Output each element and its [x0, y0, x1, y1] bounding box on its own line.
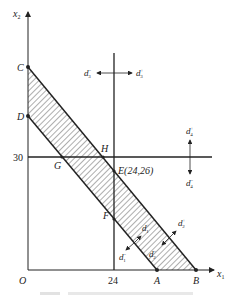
d1-minus-arrow — [126, 243, 134, 250]
label-C: C — [17, 62, 24, 73]
point-D — [26, 114, 30, 118]
label-A: A — [153, 275, 161, 286]
d3-plus-label: d+3 — [136, 68, 144, 79]
caption-placeholder — [68, 292, 193, 295]
origin-label: O — [19, 275, 26, 286]
point-B — [194, 268, 198, 272]
d2-plus-label: d+2 — [178, 218, 186, 229]
label-H: H — [100, 143, 109, 154]
point-G — [60, 155, 63, 158]
y-tick-30: 30 — [13, 152, 23, 163]
d1-minus-label: d−1 — [119, 252, 127, 263]
x-tick-24: 24 — [108, 275, 118, 286]
d4-minus-label: d−4 — [186, 178, 194, 189]
label-E: E(24,26) — [117, 165, 154, 177]
x-axis-label: x1 — [216, 268, 224, 280]
point-C — [26, 65, 30, 69]
d2-plus-arrow — [169, 231, 176, 238]
label-B: B — [193, 275, 199, 286]
d1-plus-label: d+1 — [142, 223, 150, 234]
label-G: G — [54, 160, 61, 171]
y-axis-label: x2 — [12, 8, 20, 20]
point-F — [112, 217, 115, 220]
caption-placeholder — [40, 292, 60, 295]
label-F: F — [102, 210, 110, 221]
d3-minus-label: d−3 — [84, 68, 92, 79]
goal-programming-diagram: x2 x1 O 24 30 C D A B G H E(24,26) F d−3… — [0, 0, 238, 297]
point-E — [112, 169, 115, 172]
d4-plus-label: d+4 — [186, 126, 194, 137]
d2-minus-label: d−2 — [149, 249, 157, 260]
label-D: D — [16, 111, 25, 122]
point-H — [101, 155, 104, 158]
line-DA — [28, 116, 157, 270]
point-A — [155, 268, 159, 272]
